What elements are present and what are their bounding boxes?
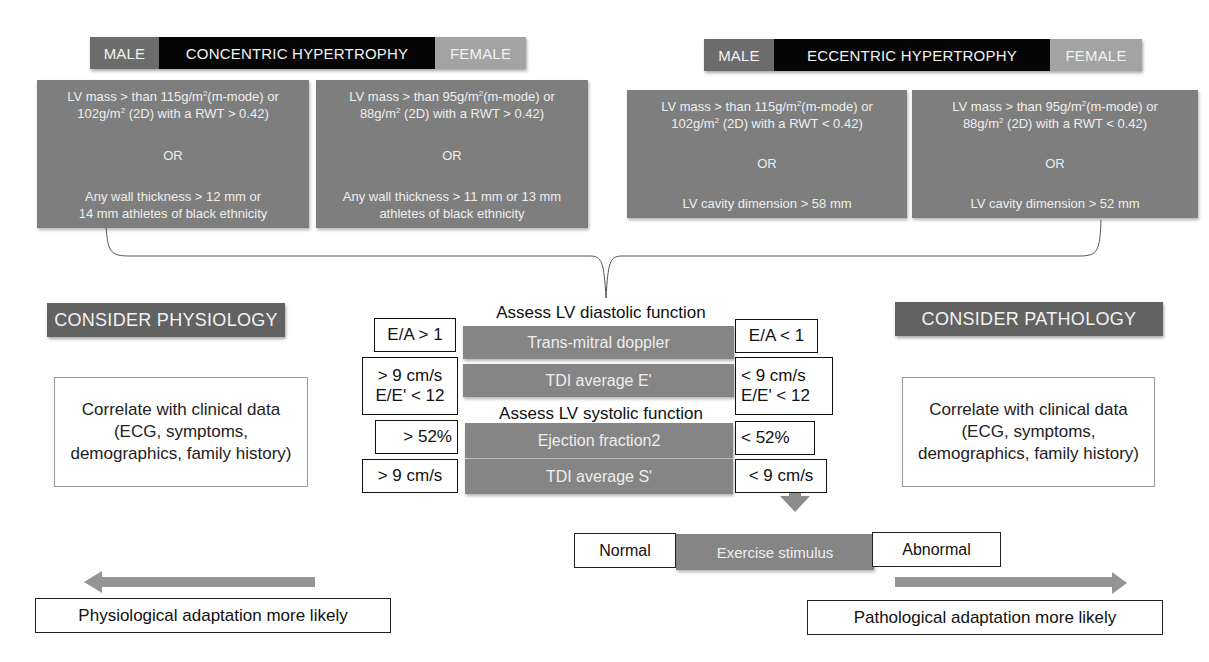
or-label: OR [631, 155, 903, 172]
diastolic-function-label: Assess LV diastolic function [466, 303, 736, 323]
pathology-clinical-box: Correlate with clinical data (ECG, sympt… [902, 377, 1155, 487]
criteria-text: LV mass > than 95g/m [349, 89, 478, 104]
s-prime-abnormal-value: < 9 cm/s [735, 459, 827, 493]
eccentric-male-criteria: LV mass > than 115g/m2(m-mode) or 102g/m… [627, 90, 907, 218]
criteria-text: LV mass > than 115g/m [67, 89, 203, 104]
exercise-abnormal-box: Abnormal [872, 532, 1001, 567]
criteria-text: LV cavity dimension > 52 mm [916, 195, 1194, 212]
s-prime-normal-value: > 9 cm/s [362, 459, 458, 493]
concentric-male-label: MALE [90, 37, 159, 69]
tdi-average-e-prime-bar: TDI average E' [463, 364, 734, 397]
value-text: > 9 cm/s [378, 366, 443, 386]
eccentric-title: ECCENTRIC HYPERTROPHY [774, 39, 1050, 71]
consider-pathology-header: CONSIDER PATHOLOGY [895, 302, 1163, 336]
left-arrow-icon [84, 571, 315, 593]
eccentric-female-label: FEMALE [1050, 39, 1142, 71]
value-text: > 52% [403, 427, 452, 447]
trans-mitral-doppler-bar: Trans-mitral doppler [463, 326, 734, 359]
brace-connector [106, 220, 1101, 298]
or-label: OR [41, 147, 305, 164]
criteria-text: (m-mode) or [207, 89, 279, 104]
criteria-text: LV cavity dimension > 58 mm [631, 195, 903, 212]
concentric-title: CONCENTRIC HYPERTROPHY [159, 37, 435, 69]
eccentric-female-criteria: LV mass > than 95g/m2(m-mode) or 88g/m2 … [912, 90, 1198, 218]
e-prime-normal-value: > 9 cm/s E/E' < 12 [362, 357, 458, 415]
value-text: < 52% [741, 428, 790, 448]
ef-abnormal-value: < 52% [735, 421, 815, 455]
value-text: < 9 cm/s [749, 466, 814, 486]
e-prime-abnormal-value: < 9 cm/s E/E' < 12 [735, 357, 833, 415]
criteria-text: (m-mode) or [801, 99, 873, 114]
concentric-header: MALE CONCENTRIC HYPERTROPHY FEMALE [90, 37, 526, 69]
value-text: E/A > 1 [387, 325, 442, 345]
value-text: < 9 cm/s [741, 366, 806, 386]
eccentric-header: MALE ECCENTRIC HYPERTROPHY FEMALE [704, 39, 1142, 71]
criteria-text: 14 mm athletes of black ethnicity [41, 205, 305, 222]
criteria-text: Any wall thickness > 11 mm or 13 mm [320, 188, 584, 205]
criteria-text: athletes of black ethnicity [320, 205, 584, 222]
eccentric-male-label: MALE [704, 39, 774, 71]
criteria-text: 102g/m [77, 106, 120, 121]
pathological-outcome-box: Pathological adaptation more likely [807, 600, 1163, 635]
value-text: > 9 cm/s [378, 466, 443, 486]
criteria-text: (m-mode) or [483, 89, 555, 104]
or-label: OR [916, 155, 1194, 172]
criteria-text: (2D) with a RWT > 0.42) [400, 106, 544, 121]
ea-normal-value: E/A > 1 [374, 318, 456, 352]
criteria-text: (2D) with a RWT < 0.42) [1003, 116, 1147, 131]
systolic-function-label: Assess LV systolic function [470, 404, 732, 424]
physiological-outcome-box: Physiological adaptation more likely [35, 598, 391, 633]
exercise-normal-box: Normal [574, 533, 676, 568]
or-label: OR [320, 147, 584, 164]
right-arrow-icon [895, 572, 1127, 594]
criteria-text: Any wall thickness > 12 mm or [41, 188, 305, 205]
criteria-text: LV mass > than 115g/m [661, 99, 797, 114]
consider-physiology-header: CONSIDER PHYSIOLOGY [47, 303, 285, 337]
concentric-female-label: FEMALE [435, 37, 526, 69]
concentric-female-criteria: LV mass > than 95g/m2(m-mode) or 88g/m2 … [316, 80, 588, 228]
ea-abnormal-value: E/A < 1 [735, 319, 818, 353]
criteria-text: (2D) with a RWT < 0.42) [719, 116, 863, 131]
criteria-text: 88g/m [360, 106, 396, 121]
criteria-text: (m-mode) or [1086, 99, 1158, 114]
criteria-text: LV mass > than 95g/m [952, 99, 1081, 114]
physiology-clinical-box: Correlate with clinical data (ECG, sympt… [54, 377, 308, 487]
value-text: E/A < 1 [749, 326, 804, 346]
value-text: E/E' < 12 [741, 386, 810, 406]
exercise-stimulus-bar: Exercise stimulus [676, 534, 874, 570]
value-text: E/E' < 12 [376, 386, 445, 406]
concentric-male-criteria: LV mass > than 115g/m2(m-mode) or 102g/m… [37, 80, 309, 228]
ef-normal-value: > 52% [375, 420, 458, 454]
criteria-text: 88g/m [963, 116, 999, 131]
tdi-average-s-prime-bar: TDI average S' [465, 459, 733, 494]
criteria-text: (2D) with a RWT > 0.42) [125, 106, 269, 121]
criteria-text: 102g/m [671, 116, 714, 131]
ejection-fraction-bar: Ejection fraction2 [465, 423, 733, 458]
